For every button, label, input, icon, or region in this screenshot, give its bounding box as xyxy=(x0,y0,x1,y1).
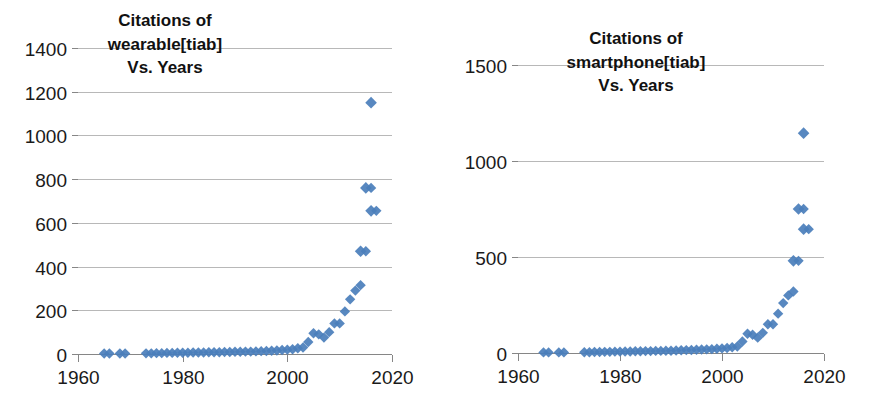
y-tick-label: 1000 xyxy=(25,126,67,147)
scatter-chart-wearable: 0200400600800100012001400196019802000202… xyxy=(0,0,446,416)
x-tick-label: 1960 xyxy=(57,367,99,388)
data-point-marker xyxy=(778,298,788,308)
chart-title-line: smartphone[tiab] xyxy=(567,53,706,72)
chart-title-line: wearable[tiab] xyxy=(107,35,222,54)
data-point-marker xyxy=(120,348,130,358)
x-tick-label: 2000 xyxy=(266,367,308,388)
y-tick-label: 1400 xyxy=(25,39,67,60)
data-point-marker xyxy=(773,308,783,318)
x-tick-label: 1960 xyxy=(497,366,539,387)
x-tick-label: 1980 xyxy=(162,367,204,388)
y-tick-label: 400 xyxy=(35,258,67,279)
scatter-chart-smartphone: 0500100015001960198020002020Citations of… xyxy=(446,0,891,416)
y-tick-label: 1000 xyxy=(465,152,507,173)
chart-title-line: Vs. Years xyxy=(127,58,202,77)
data-point-marker xyxy=(798,127,810,139)
data-point-marker xyxy=(365,205,377,217)
data-point-marker xyxy=(355,245,367,257)
data-point-marker xyxy=(340,306,350,316)
y-tick-label: 0 xyxy=(496,344,507,365)
y-tick-label: 0 xyxy=(56,345,67,366)
data-point-marker xyxy=(104,348,114,358)
y-tick-label: 800 xyxy=(35,170,67,191)
figure-container: 0200400600800100012001400196019802000202… xyxy=(0,0,891,416)
data-point-marker xyxy=(345,294,355,304)
x-tick-label: 2020 xyxy=(803,366,845,387)
chart-panel-smartphone: 0500100015001960198020002020Citations of… xyxy=(446,0,891,416)
x-tick-label: 1980 xyxy=(599,366,641,387)
chart-title-line: Vs. Years xyxy=(598,76,673,95)
y-tick-label: 1500 xyxy=(465,56,507,77)
y-tick-label: 600 xyxy=(35,214,67,235)
data-point-marker xyxy=(365,97,377,109)
data-point-marker xyxy=(360,182,372,194)
plot-area: 0500100015001960198020002020Citations of… xyxy=(465,29,846,387)
y-tick-label: 200 xyxy=(35,301,67,322)
chart-title-line: Citations of xyxy=(589,29,683,48)
x-tick-label: 2000 xyxy=(701,366,743,387)
data-point-marker xyxy=(334,318,344,328)
chart-panel-wearable: 0200400600800100012001400196019802000202… xyxy=(0,0,446,416)
y-tick-label: 500 xyxy=(475,248,507,269)
chart-title-line: Citations of xyxy=(118,11,212,30)
x-tick-label: 2020 xyxy=(371,367,413,388)
y-tick-label: 1200 xyxy=(25,83,67,104)
plot-area: 0200400600800100012001400196019802000202… xyxy=(25,11,414,388)
